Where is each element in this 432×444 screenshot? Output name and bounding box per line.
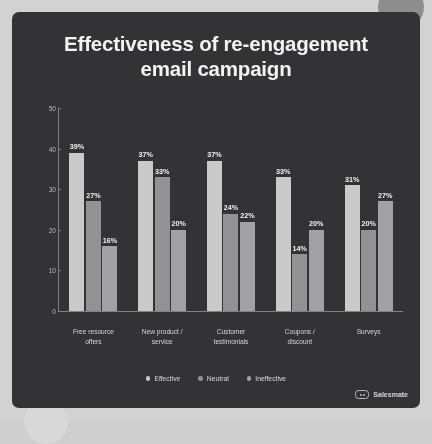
legend-swatch-icon [247, 376, 252, 381]
bar-effective[interactable]: 33% [276, 177, 291, 311]
y-axis-tick-label: 40 [39, 146, 56, 153]
bar-ineffective[interactable]: 20% [171, 230, 186, 311]
bar-group: 33%14%20% [265, 108, 334, 311]
bar-effective[interactable]: 37% [138, 161, 153, 311]
legend-label: Ineffective [255, 375, 286, 382]
bar-neutral[interactable]: 20% [361, 230, 376, 311]
bar-ineffective[interactable]: 27% [378, 201, 393, 311]
chart-card: Effectiveness of re-engagement email cam… [12, 12, 420, 408]
bar-value-label: 27% [86, 191, 100, 200]
brand-watermark: Salesmate [355, 390, 408, 399]
plot-area: 01020304050 39%27%16%37%33%20%37%24%22%3… [39, 108, 403, 323]
bar-value-label: 37% [207, 150, 221, 159]
bar-value-label: 20% [309, 219, 323, 228]
bar-group: 37%24%22% [197, 108, 266, 311]
bar-value-label: 24% [224, 203, 238, 212]
x-axis-labels: Free resourceoffersNew product /serviceC… [59, 327, 403, 346]
x-axis-category-label: Surveys [334, 327, 403, 346]
bar-group: 37%33%20% [128, 108, 197, 311]
bar-effective[interactable]: 39% [69, 153, 84, 311]
x-axis-category-label: New product /service [128, 327, 197, 346]
bar-neutral[interactable]: 14% [292, 254, 307, 311]
bar-value-label: 33% [276, 167, 290, 176]
x-axis-category-label: Customertestimonials [197, 327, 266, 346]
bar-neutral[interactable]: 27% [86, 201, 101, 311]
legend-item-effective[interactable]: Effective [146, 375, 180, 382]
legend-label: Neutral [207, 375, 229, 382]
bar-value-label: 22% [240, 211, 254, 220]
bar-value-label: 27% [378, 191, 392, 200]
legend-item-ineffective[interactable]: Ineffective [247, 375, 286, 382]
bar-neutral[interactable]: 24% [223, 214, 238, 311]
y-axis-tick-label: 0 [39, 308, 56, 315]
bar-value-label: 14% [293, 244, 307, 253]
chart-title-line-2: email campaign [12, 56, 420, 81]
chart-title: Effectiveness of re-engagement email cam… [12, 31, 420, 81]
bar-neutral[interactable]: 33% [155, 177, 170, 311]
y-axis-tick-label: 50 [39, 105, 56, 112]
legend-swatch-icon [198, 376, 203, 381]
bar-effective[interactable]: 37% [207, 161, 222, 311]
bar-value-label: 31% [345, 175, 359, 184]
x-axis-category-label: Coupons /discount [265, 327, 334, 346]
bar-value-label: 37% [138, 150, 152, 159]
bar-value-label: 20% [361, 219, 375, 228]
bar-value-label: 20% [171, 219, 185, 228]
bar-ineffective[interactable]: 22% [240, 222, 255, 311]
bar-group: 39%27%16% [59, 108, 128, 311]
salesmate-logo-icon [355, 390, 369, 399]
bar-value-label: 33% [155, 167, 169, 176]
y-axis-tick-label: 20 [39, 227, 56, 234]
bar-ineffective[interactable]: 16% [102, 246, 117, 311]
bar-ineffective[interactable]: 20% [309, 230, 324, 311]
legend-item-neutral[interactable]: Neutral [198, 375, 228, 382]
y-axis-tick-label: 10 [39, 267, 56, 274]
bar-effective[interactable]: 31% [345, 185, 360, 311]
legend-swatch-icon [146, 376, 151, 381]
bar-group: 31%20%27% [334, 108, 403, 311]
x-axis-line [58, 311, 403, 312]
brand-name: Salesmate [373, 391, 408, 398]
chart-legend: EffectiveNeutralIneffective [12, 375, 420, 382]
y-axis-tick-mark [58, 311, 61, 312]
chart-title-line-1: Effectiveness of re-engagement [12, 31, 420, 56]
bar-value-label: 16% [103, 236, 117, 245]
bar-value-label: 39% [70, 142, 84, 151]
y-axis-tick-label: 30 [39, 186, 56, 193]
legend-label: Effective [154, 375, 180, 382]
bar-groups: 39%27%16%37%33%20%37%24%22%33%14%20%31%2… [59, 108, 403, 311]
x-axis-category-label: Free resourceoffers [59, 327, 128, 346]
